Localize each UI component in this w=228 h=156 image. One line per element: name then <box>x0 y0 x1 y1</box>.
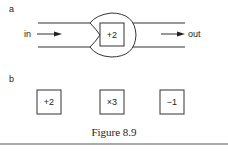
panel-b-label: b <box>9 74 14 84</box>
operation-boxes: +2 ×3 −1 <box>37 90 184 114</box>
box-minus-one-label: −1 <box>167 97 177 107</box>
box-add-two-label: +2 <box>44 97 54 107</box>
operation-box-label: +2 <box>107 30 117 40</box>
channel-diagram: +2 in out <box>24 13 201 57</box>
output-arrow-icon <box>177 32 185 37</box>
input-arrow-icon <box>54 32 62 37</box>
input-label: in <box>24 29 31 39</box>
panel-a-label: a <box>9 4 14 14</box>
output-label: out <box>188 29 201 39</box>
figure-caption: Figure 8.9 <box>91 126 137 138</box>
figure-canvas: a +2 in out b +2 ×3 −1 Figure 8.9 <box>0 0 228 156</box>
box-times-three-label: ×3 <box>107 97 117 107</box>
